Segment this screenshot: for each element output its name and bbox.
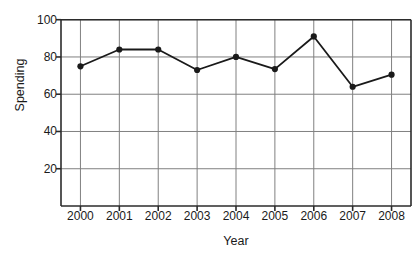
axis-ticks — [56, 20, 392, 211]
gridlines-vertical — [80, 20, 391, 206]
line-chart: Spending 20406080100 2000200120022003200… — [0, 0, 419, 262]
x-axis-title: Year — [61, 234, 411, 248]
plot-area — [0, 0, 419, 262]
